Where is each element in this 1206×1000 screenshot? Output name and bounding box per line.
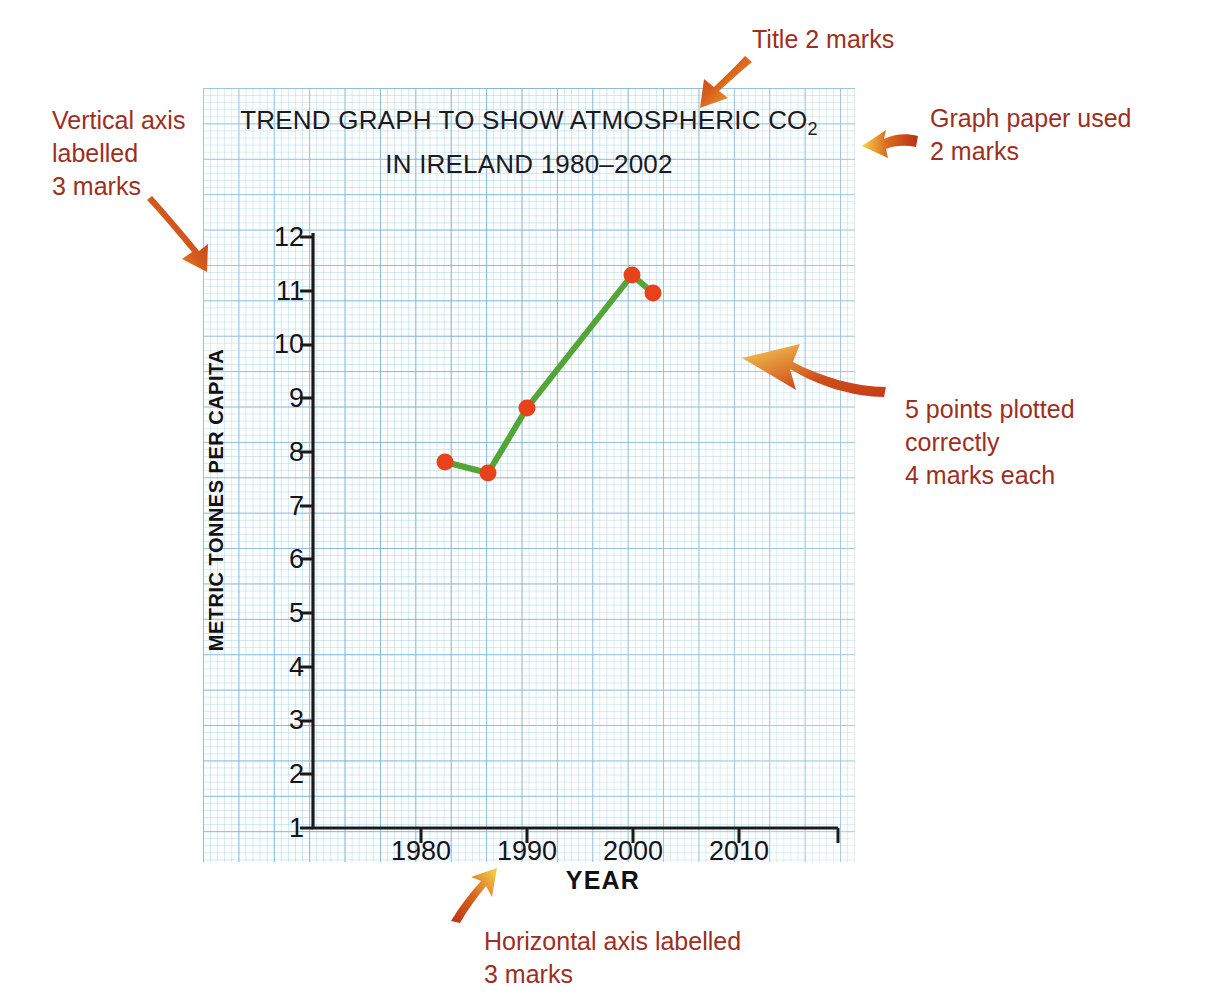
data-point-2002[interactable] [645, 285, 662, 302]
annotation-arrow-graph-paper [862, 130, 918, 158]
axis-lines [312, 233, 839, 828]
annotation-arrow-vertical-axis [147, 196, 208, 272]
annotation-arrow-points [742, 344, 886, 397]
annotation-arrow-title [700, 56, 752, 108]
data-markers [437, 267, 662, 482]
annotation-arrow-horizontal-axis [451, 868, 497, 923]
data-point-1990[interactable] [519, 400, 536, 417]
annotation-vertical-axis: Vertical axis labelled 3 marks [52, 104, 185, 203]
data-point-2000[interactable] [624, 267, 641, 284]
y-axis-ticks [300, 237, 313, 828]
annotation-graph-paper: Graph paper used 2 marks [930, 102, 1132, 168]
x-axis-ticks [421, 828, 838, 843]
annotation-title-marks: Title 2 marks [752, 23, 894, 56]
data-point-1982[interactable] [437, 454, 454, 471]
annotation-horizontal-axis: Horizontal axis labelled 3 marks [484, 925, 741, 991]
annotation-points-plotted: 5 points plotted correctly 4 marks each [905, 393, 1075, 492]
data-point-1986[interactable] [480, 465, 497, 482]
data-line [445, 275, 653, 473]
